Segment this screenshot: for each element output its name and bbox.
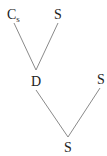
edge-s-d bbox=[36, 23, 58, 70]
edge-d-s-bottom bbox=[36, 90, 68, 137]
edge-cs-d bbox=[14, 23, 36, 70]
tree-diagram: Cs S D S S bbox=[0, 0, 107, 156]
node-cs: Cs bbox=[7, 7, 20, 24]
node-d: D bbox=[31, 74, 41, 89]
node-s-top: S bbox=[54, 7, 62, 22]
edge-s-right-s-bottom bbox=[68, 88, 100, 137]
node-s-right: S bbox=[97, 72, 105, 87]
node-s-bottom: S bbox=[64, 140, 72, 155]
